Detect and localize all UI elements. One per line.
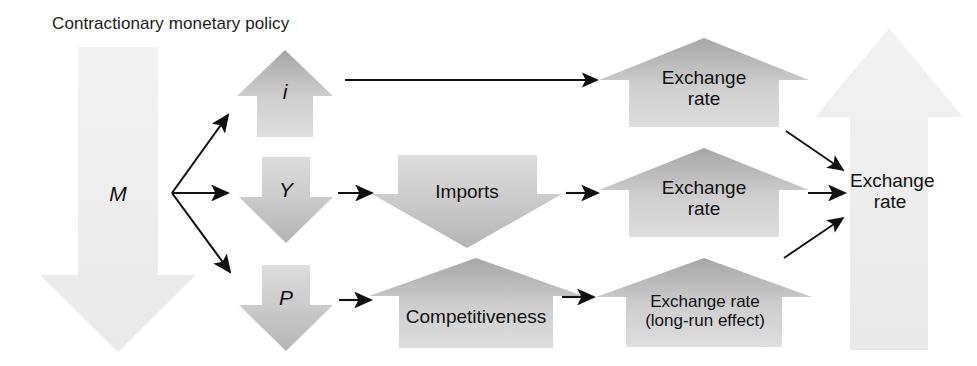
- monetary-policy-flow-diagram: Contractionary monetary policy: [0, 0, 977, 366]
- node-price-level-shape: [239, 265, 333, 351]
- node-exchange-rate-1-shape: [599, 38, 809, 127]
- node-exchange-rate-total-shape: [815, 28, 963, 350]
- node-exchange-rate-2-shape: [599, 148, 809, 237]
- node-interest-rate-shape: [237, 50, 333, 137]
- node-money-supply-shape: [40, 47, 196, 352]
- flow-diagram-canvas: [0, 0, 977, 366]
- connector-exchange-rate-long-run-to-total: [784, 218, 843, 258]
- node-imports-shape: [372, 155, 562, 248]
- node-output-shape: [239, 157, 333, 243]
- node-competitiveness-shape: [369, 258, 583, 348]
- connector-m-to-i: [172, 115, 228, 193]
- connector-exchange-rate-1-to-total: [786, 131, 843, 170]
- node-exchange-rate-long-run-shape: [596, 258, 812, 347]
- connector-m-to-p: [172, 193, 230, 272]
